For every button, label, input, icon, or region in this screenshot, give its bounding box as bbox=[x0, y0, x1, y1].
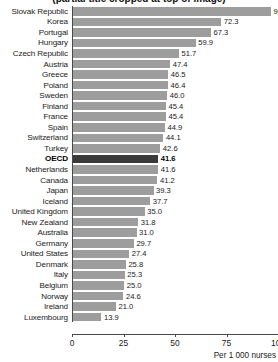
bar bbox=[73, 144, 160, 153]
bar bbox=[73, 281, 124, 290]
bar-row: Sweden46.0 bbox=[0, 90, 278, 101]
category-label: Italy bbox=[0, 270, 72, 279]
category-label: United States bbox=[0, 249, 72, 258]
bar-row: Poland46.4 bbox=[0, 80, 278, 91]
bar-value-label: 46.4 bbox=[168, 80, 185, 91]
bar bbox=[73, 112, 166, 121]
bar-value-label: 21.0 bbox=[116, 301, 133, 312]
axis-tick-label: 50 bbox=[170, 338, 179, 348]
bar-value-label: 42.6 bbox=[160, 143, 177, 154]
bar-row: Austria47.4 bbox=[0, 59, 278, 70]
category-label: Japan bbox=[0, 186, 72, 195]
bar bbox=[73, 60, 170, 69]
category-label: Turkey bbox=[0, 144, 72, 153]
bar-row: New Zealand31.8 bbox=[0, 217, 278, 228]
bar-value-label: 46.0 bbox=[167, 90, 184, 101]
bar-row: United Kingdom35.0 bbox=[0, 206, 278, 217]
bar-value-label: 44.9 bbox=[165, 122, 182, 133]
bar bbox=[73, 18, 221, 27]
bar bbox=[73, 207, 145, 216]
bar bbox=[73, 49, 179, 58]
bar-track: 25.3 bbox=[72, 270, 278, 281]
bar-track: 47.4 bbox=[72, 59, 278, 70]
bar-value-label: 45.4 bbox=[166, 111, 183, 122]
bar-track: 13.9 bbox=[72, 312, 278, 323]
bar-value-label: 13.9 bbox=[101, 312, 118, 323]
category-label: Belgium bbox=[0, 281, 72, 290]
bar-row: Switzerland44.1 bbox=[0, 133, 278, 144]
bar bbox=[73, 165, 158, 174]
bar-row: Netherlands41.6 bbox=[0, 164, 278, 175]
bar bbox=[73, 228, 137, 237]
bar-track: 44.9 bbox=[72, 122, 278, 133]
bar-value-label: 39.3 bbox=[154, 185, 171, 196]
bar bbox=[73, 134, 163, 143]
bar-value-label: 27.4 bbox=[129, 249, 146, 260]
bar-row: Canada41.2 bbox=[0, 175, 278, 186]
bar-track: 39.3 bbox=[72, 185, 278, 196]
bar-track: 21.0 bbox=[72, 301, 278, 312]
category-label: Iceland bbox=[0, 197, 72, 206]
bar-value-label: 31.8 bbox=[138, 217, 155, 228]
category-label: Denmark bbox=[0, 260, 72, 269]
bar-value-label: 59.9 bbox=[196, 38, 213, 49]
category-label: Canada bbox=[0, 176, 72, 185]
category-label: Sweden bbox=[0, 91, 72, 100]
category-label: Spain bbox=[0, 123, 72, 132]
bar-value-label: 51.7 bbox=[179, 48, 196, 59]
category-label: Germany bbox=[0, 239, 72, 248]
bar-track: 31.0 bbox=[72, 227, 278, 238]
axis-tick-label: 0 bbox=[70, 338, 75, 348]
bar-track: 35.0 bbox=[72, 206, 278, 217]
bar-track: 51.7 bbox=[72, 48, 278, 59]
category-label: Norway bbox=[0, 292, 72, 301]
bar-track: 59.9 bbox=[72, 38, 278, 49]
bar bbox=[73, 271, 125, 280]
bar-row: United States27.4 bbox=[0, 249, 278, 260]
bar bbox=[73, 186, 154, 195]
plot-area: Slovak Republic96.6Korea72.3Portugal67.3… bbox=[0, 6, 278, 322]
bar-value-label: 24.6 bbox=[123, 291, 140, 302]
bar bbox=[73, 302, 116, 311]
category-label: OECD bbox=[0, 154, 72, 163]
category-label: Australia bbox=[0, 228, 72, 237]
axis-caption: Per 1 000 nurses bbox=[214, 351, 276, 360]
bar-track: 44.1 bbox=[72, 133, 278, 144]
bar bbox=[73, 197, 150, 206]
category-label: Switzerland bbox=[0, 133, 72, 142]
category-label: Luxembourg bbox=[0, 313, 72, 322]
bar bbox=[73, 28, 211, 37]
bar-row: Hungary59.9 bbox=[0, 38, 278, 49]
axis-tick bbox=[124, 334, 125, 337]
category-label: Ireland bbox=[0, 302, 72, 311]
bar-track: 24.6 bbox=[72, 291, 278, 302]
category-label: Greece bbox=[0, 70, 72, 79]
bar-value-label: 41.6 bbox=[158, 154, 175, 165]
bar-row: Slovak Republic96.6 bbox=[0, 6, 278, 17]
bar-row: Greece46.5 bbox=[0, 69, 278, 80]
bar-track: 37.7 bbox=[72, 196, 278, 207]
bar bbox=[73, 102, 166, 111]
axis-tick-label: 25 bbox=[119, 338, 128, 348]
bar-row: Korea72.3 bbox=[0, 17, 278, 28]
bar-value-label: 25.0 bbox=[124, 280, 141, 291]
bar bbox=[73, 218, 138, 227]
bar-track: 46.5 bbox=[72, 69, 278, 80]
bar-track: 41.6 bbox=[72, 154, 278, 165]
bar-value-label: 41.6 bbox=[158, 164, 175, 175]
bar-value-label: 25.3 bbox=[125, 270, 142, 281]
category-label: United Kingdom bbox=[0, 207, 72, 216]
bar-value-label: 96.6 bbox=[271, 6, 278, 17]
axis-tick bbox=[227, 334, 228, 337]
category-label: Finland bbox=[0, 102, 72, 111]
bar-track: 27.4 bbox=[72, 249, 278, 260]
bar-row: Norway24.6 bbox=[0, 291, 278, 302]
category-label: Czech Republic bbox=[0, 49, 72, 58]
category-label: Portugal bbox=[0, 28, 72, 37]
bar-value-label: 44.1 bbox=[163, 133, 180, 144]
category-label: Korea bbox=[0, 17, 72, 26]
bar-track: 45.4 bbox=[72, 111, 278, 122]
bar-track: 31.8 bbox=[72, 217, 278, 228]
bar-value-label: 45.4 bbox=[166, 101, 183, 112]
chart-title: (partial title cropped at top of image) bbox=[0, 0, 278, 4]
